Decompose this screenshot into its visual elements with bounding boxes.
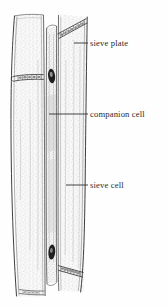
label-sieve-cell: sieve cell — [90, 181, 124, 190]
phloem-drawing — [0, 0, 168, 307]
label-sieve-plate: sieve plate — [90, 39, 128, 48]
label-companion-cell: companion cell — [90, 110, 145, 119]
phloem-figure: sieve plate companion cell sieve cell — [0, 0, 168, 307]
companion-cell — [46, 25, 57, 285]
left-sieve-cell — [10, 12, 50, 302]
